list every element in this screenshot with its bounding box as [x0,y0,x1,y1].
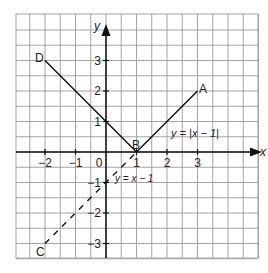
x-tick-label: 1 [133,156,140,170]
coordinate-graph: x y −2−10123 321−1−2−3 y = |x − 1| y = x… [0,0,268,273]
point-b-label: B [132,138,140,152]
x-tick-label: 0 [96,156,103,170]
y-axis-label: y [93,19,101,33]
y-tick-label: 2 [94,84,101,98]
point-d-label: D [35,51,44,65]
y-tick-label: −1 [87,176,101,190]
y-tick-label: −2 [87,206,101,220]
x-tick-label: 3 [194,156,201,170]
grid-border [16,14,258,258]
x-tick-label: −2 [38,156,52,170]
x-tick-label: 2 [164,156,171,170]
grid [16,14,259,259]
point-c-label: C [36,245,45,259]
x-axis-label: x [259,145,267,159]
abs-graph-label: y = |x − 1| [170,127,219,139]
x-tick-label: −1 [69,156,83,170]
y-tick-label: −3 [87,237,101,251]
y-tick-label: 3 [94,54,101,68]
point-a-label: A [199,82,207,96]
linear-graph-label: y = x − 1 [114,173,153,184]
